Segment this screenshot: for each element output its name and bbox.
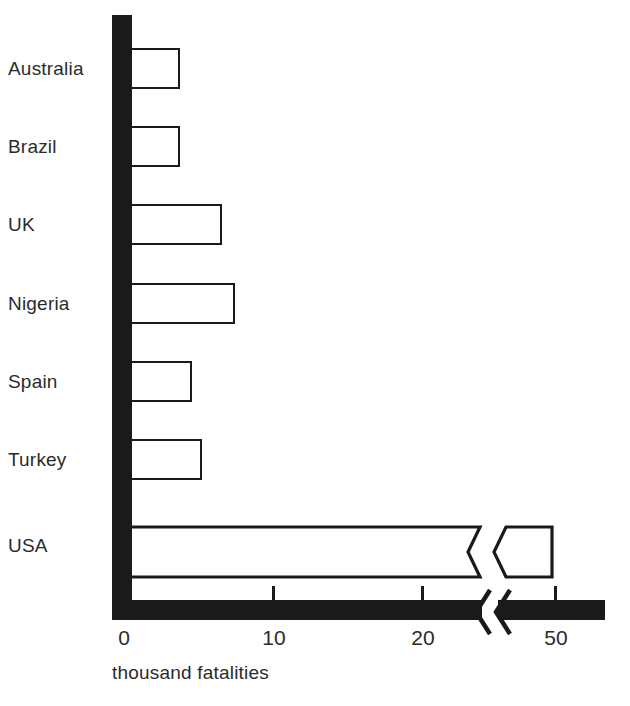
category-label-row-1: Brazil [8,136,108,158]
x-axis-break-chevron-icon [470,588,530,636]
x-axis-left-segment [112,600,482,620]
bar-usa-segment-right [488,525,568,580]
x-tick-mark-10 [272,586,275,602]
bar-usa-segment-left [120,525,490,580]
bar-spain [122,361,192,402]
category-label-uk: UK [8,214,108,236]
category-label-row-0: Australia [8,58,108,80]
x-tick-label-10: 10 [262,626,285,650]
bar-nigeria [122,283,235,324]
category-label-row-6: USA [8,535,108,557]
x-tick-label-50: 50 [544,626,567,650]
category-label-usa: USA [8,535,108,557]
x-tick-mark-0 [121,586,124,602]
category-label-row-2: UK [8,214,108,236]
category-label-row-3: Nigeria [8,293,108,315]
category-label-turkey: Turkey [8,449,108,471]
category-label-spain: Spain [8,371,108,393]
category-label-brazil: Brazil [8,136,108,158]
x-axis-title: thousand fatalities [112,662,269,684]
x-tick-label-20: 20 [411,626,434,650]
x-tick-mark-20 [421,586,424,602]
bar-usa-left-path [122,527,480,577]
y-axis [112,15,132,620]
category-label-row-4: Spain [8,371,108,393]
bar-uk [122,204,222,245]
category-label-row-5: Turkey [8,449,108,471]
category-label-nigeria: Nigeria [8,293,108,315]
x-tick-mark-50 [554,586,557,602]
bar-usa-right-path [494,527,552,577]
bar-turkey [122,439,202,480]
category-label-australia: Australia [8,58,108,80]
bar-chart: Australia Brazil UK Nigeria Spain Turkey… [0,0,630,706]
x-tick-label-0: 0 [118,626,130,650]
